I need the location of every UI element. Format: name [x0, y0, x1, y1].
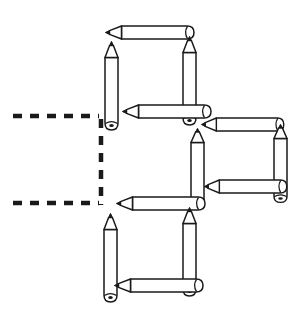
pencil-squares-figure: [0, 0, 300, 319]
bottom-left-square-left-pencil: [104, 213, 117, 302]
middle-right-square-left-pencil: [191, 128, 204, 206]
bottom-left-square-top-pencil: [116, 197, 205, 210]
top-left-square-bottom-pencil: [122, 105, 211, 118]
top-left-square-left-pencil: [105, 41, 118, 130]
middle-right-square: [191, 118, 287, 206]
bottom-left-square-bottom-pencil: [114, 279, 203, 292]
middle-right-square-top-pencil: [201, 118, 283, 131]
middle-right-square-bottom-pencil: [204, 180, 286, 193]
figure-canvas: [0, 0, 300, 319]
bottom-left-square: [104, 197, 205, 302]
dashed-guides: [13, 116, 101, 205]
top-left-square-top-pencil: [105, 26, 194, 39]
top-left-square: [105, 26, 211, 130]
